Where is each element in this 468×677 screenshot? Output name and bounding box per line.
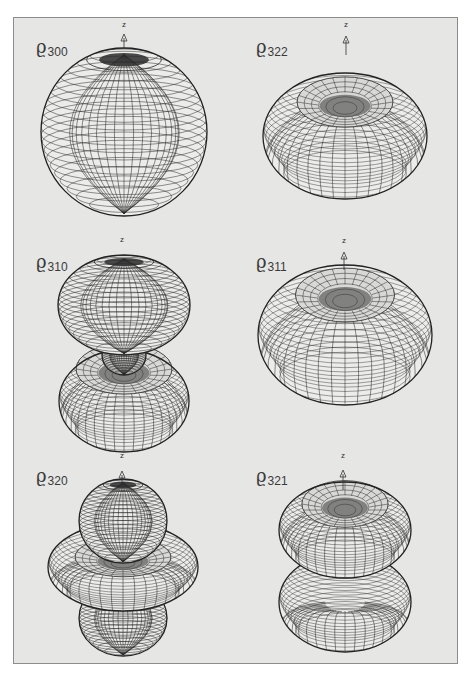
z-axis-label: z bbox=[120, 235, 124, 244]
panel-label-rho-321: ϱ321 bbox=[256, 465, 288, 487]
rho-symbol: ϱ bbox=[36, 251, 47, 272]
panel-label-rho-300: ϱ300 bbox=[36, 36, 68, 58]
torus-surface bbox=[258, 254, 432, 405]
orbital-plot-rho-311 bbox=[258, 252, 432, 405]
z-axis-label: z bbox=[120, 451, 124, 460]
rho-symbol: ϱ bbox=[256, 36, 267, 57]
z-axis-label: z bbox=[122, 20, 126, 29]
quantum-numbers-subscript: 310 bbox=[48, 260, 68, 274]
sphere-surface bbox=[58, 253, 190, 355]
z-axis-label: z bbox=[341, 451, 345, 460]
rho-symbol: ϱ bbox=[36, 36, 47, 57]
panel-label-rho-322: ϱ322 bbox=[256, 36, 288, 58]
orbital-plot-rho-310 bbox=[58, 253, 190, 452]
quantum-numbers-subscript: 322 bbox=[268, 45, 288, 59]
sphere-surface bbox=[41, 47, 207, 216]
panel-label-rho-320: ϱ320 bbox=[36, 465, 68, 487]
sphere-surface bbox=[79, 478, 167, 563]
quantum-numbers-subscript: 321 bbox=[268, 474, 288, 488]
quantum-numbers-subscript: 320 bbox=[48, 474, 68, 488]
rho-symbol: ϱ bbox=[256, 251, 267, 272]
quantum-numbers-subscript: 311 bbox=[268, 260, 287, 274]
panel-label-rho-310: ϱ310 bbox=[36, 251, 68, 273]
z-axis-label: z bbox=[344, 20, 348, 29]
rho-symbol: ϱ bbox=[36, 465, 47, 486]
orbital-plot-rho-322 bbox=[263, 36, 427, 199]
torus-surface bbox=[279, 473, 411, 578]
orbital-plot-rho-321 bbox=[279, 470, 411, 652]
torus-surface bbox=[263, 62, 427, 199]
quantum-numbers-subscript: 300 bbox=[48, 45, 68, 59]
orbital-plot-rho-300 bbox=[41, 34, 207, 216]
orbital-plot-rho-320 bbox=[48, 471, 198, 656]
panel-label-rho-311: ϱ311 bbox=[256, 251, 287, 273]
z-axis-arrow-icon bbox=[343, 36, 349, 55]
orbital-density-plots bbox=[0, 0, 468, 677]
rho-symbol: ϱ bbox=[256, 465, 267, 486]
z-axis-arrow-icon bbox=[121, 34, 127, 48]
z-axis-label: z bbox=[342, 236, 346, 245]
